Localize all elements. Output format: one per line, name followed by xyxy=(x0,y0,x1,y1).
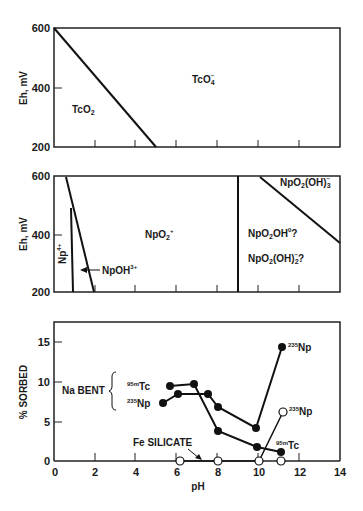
eh-axis-label-top: Eh, mV xyxy=(18,71,29,105)
top-x-ticks xyxy=(54,88,299,147)
label-np4: Np4+ xyxy=(56,243,68,264)
sorbed-tick-15: 15 xyxy=(38,336,50,348)
svg-text:0: 0 xyxy=(52,466,58,478)
eh-tick-600-mid: 600 xyxy=(32,170,50,182)
brace-icon xyxy=(109,372,116,410)
label-npo2oh3: NpO2(OH)3− xyxy=(280,176,331,189)
label-fe-silicate: Fe SILICATE xyxy=(133,437,193,448)
sorbed-tick-5: 5 xyxy=(44,416,50,428)
series-na-bent-np xyxy=(163,347,282,428)
figure: 600 400 200 Eh, mV TcO2 TcO4− 600 400 20… xyxy=(0,0,363,511)
label-npo2oh2: NpO2(OH)2−? xyxy=(248,252,304,265)
svg-text:8: 8 xyxy=(215,466,221,478)
svg-text:6: 6 xyxy=(174,466,180,478)
label-npo2oh0: NpO2OH0? xyxy=(248,227,297,240)
label-tco4: TcO4− xyxy=(192,73,215,86)
arrow-icon xyxy=(195,454,202,460)
tco2-tco4-boundary xyxy=(54,28,156,147)
label-tco2: TcO2 xyxy=(72,104,95,116)
svg-text:4: 4 xyxy=(133,466,140,478)
label-np-top: 235Np xyxy=(288,342,311,353)
label-npo2p: NpO2+ xyxy=(145,228,174,241)
svg-text:12: 12 xyxy=(294,466,306,478)
eh-tick-400: 400 xyxy=(32,82,50,94)
middle-panel: 600 400 200 Eh, mV Np4+ NpOH3+ NpO2+ NpO… xyxy=(18,170,340,298)
np4-npoh-boundary xyxy=(71,208,73,292)
ph-tick-labels: 0 2 4 6 8 10 12 14 xyxy=(52,466,347,478)
svg-text:2: 2 xyxy=(92,466,98,478)
label-na-bent-tc: 95mTc xyxy=(127,381,150,392)
label-na-bent: Na BENT xyxy=(62,385,105,396)
np4-npo2-boundary xyxy=(66,177,94,292)
eh-tick-600: 600 xyxy=(32,22,50,34)
eh-tick-200-mid: 200 xyxy=(32,286,50,298)
eh-tick-200: 200 xyxy=(32,141,50,153)
svg-text:14: 14 xyxy=(334,466,347,478)
svg-text:10: 10 xyxy=(253,466,265,478)
label-na-bent-np: 235Np xyxy=(127,398,150,409)
ph-axis-label: pH xyxy=(191,481,204,492)
label-fe-np: 235Np xyxy=(289,406,312,417)
eh-tick-400-mid: 400 xyxy=(32,229,50,241)
label-npoh3: NpOH3+ xyxy=(102,264,138,276)
top-panel: 600 400 200 Eh, mV TcO2 TcO4− xyxy=(18,22,340,153)
top-panel-frame xyxy=(54,28,340,147)
arrow-left-icon xyxy=(80,267,87,273)
sorbed-tick-0: 0 xyxy=(44,455,50,467)
sorbed-axis-label: % SORBED xyxy=(18,365,29,419)
sorbed-tick-10: 10 xyxy=(38,376,50,388)
bottom-panel: 15 10 5 0 0 2 4 6 8 10 12 14 pH % SORBED xyxy=(18,322,347,492)
eh-axis-label-mid: Eh, mV xyxy=(18,217,29,251)
